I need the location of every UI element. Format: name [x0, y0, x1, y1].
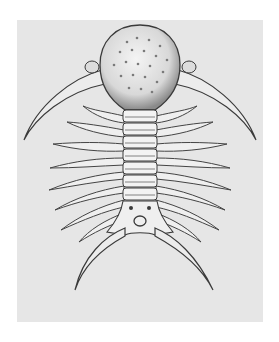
axial-rings: [123, 110, 157, 200]
tail-spines: [75, 228, 213, 290]
trilobite-illustration: [17, 20, 263, 322]
glabella: [100, 25, 180, 110]
illustration-plate: [17, 20, 263, 322]
